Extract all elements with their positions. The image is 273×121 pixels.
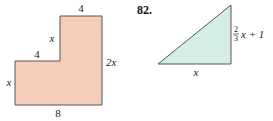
l-right-label: 2x: [106, 56, 117, 68]
l-shape: [15, 16, 102, 105]
figure-canvas: 4 x 4 x 2x 8 82. x 2 3 x + 1: [0, 0, 273, 121]
l-top-label: 4: [78, 2, 84, 14]
height-frac-num: 2: [234, 25, 238, 34]
height-frac-den: 3: [234, 34, 238, 43]
problem-number: 82.: [137, 3, 152, 17]
triangle-base-label: x: [193, 66, 199, 78]
l-upper-left-label: x: [49, 32, 55, 44]
l-bottom-label: 8: [55, 107, 61, 119]
l-lower-left-label: x: [6, 76, 12, 88]
height-rest: x + 1: [240, 28, 264, 40]
l-step-label: 4: [34, 48, 40, 60]
right-triangle: [158, 5, 231, 64]
